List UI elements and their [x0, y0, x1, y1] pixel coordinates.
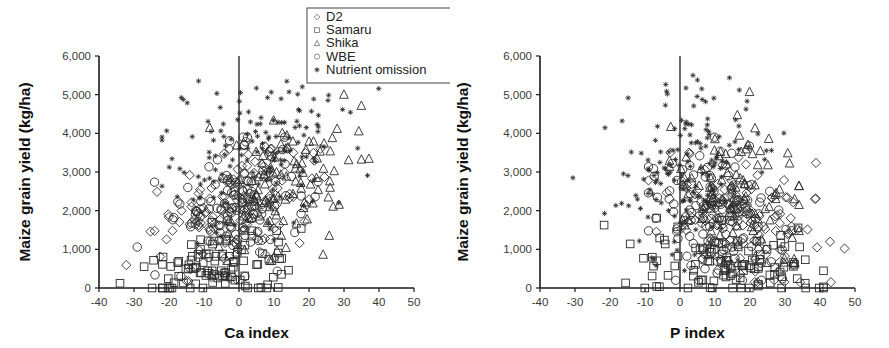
star-marker-icon: [270, 187, 275, 192]
x-tick-label: -10: [637, 296, 654, 308]
star-marker-icon: [325, 98, 330, 103]
square-marker-icon: [653, 283, 661, 291]
star-marker-icon: [301, 203, 306, 208]
circle-marker-icon: [151, 271, 159, 279]
star-marker-icon: [301, 133, 306, 138]
triangle-marker-icon: [766, 216, 775, 224]
triangle-marker-icon: [289, 137, 298, 145]
square-marker-icon: [801, 256, 809, 264]
star-marker-icon: [712, 163, 717, 168]
x-tick-label: 50: [849, 296, 862, 308]
star-marker-icon: [326, 93, 331, 98]
star-marker-icon: [700, 171, 705, 176]
diamond-marker-icon: [840, 244, 849, 253]
star-marker-icon: [237, 146, 242, 151]
triangle-marker-icon: [795, 181, 804, 189]
star-marker-icon: [690, 73, 695, 78]
star-marker-icon: [282, 120, 287, 125]
star-marker-icon: [672, 178, 677, 183]
star-marker-icon: [295, 92, 300, 97]
x-axis-title: P index: [670, 324, 725, 341]
star-marker-icon: [286, 89, 291, 94]
chart-panel-ca: 01,0002,0003,0004,0005,0006,000-40-30-20…: [0, 0, 450, 348]
star-marker-icon: [675, 248, 680, 253]
triangle-marker-icon: [735, 131, 744, 139]
x-tick-label: -30: [567, 296, 584, 308]
star-marker-icon: [685, 151, 690, 156]
star-marker-icon: [299, 182, 304, 187]
y-tick-label: 6,000: [503, 50, 532, 62]
star-marker-icon: [732, 139, 737, 144]
circle-marker-icon: [133, 243, 141, 251]
star-marker-icon: [218, 177, 223, 182]
star-marker-icon: [315, 129, 320, 134]
star-marker-icon: [252, 174, 257, 179]
star-marker-icon: [260, 146, 265, 151]
star-marker-icon: [649, 255, 654, 260]
star-marker-icon: [719, 174, 724, 179]
star-marker-icon: [260, 141, 265, 146]
star-marker-icon: [177, 166, 182, 171]
diamond-marker-icon: [162, 235, 171, 244]
star-marker-icon: [695, 194, 700, 199]
star-marker-icon: [348, 110, 353, 115]
x-tick-label: 0: [236, 296, 242, 308]
x-tick-label: 10: [268, 296, 281, 308]
y-tick-label: 3,000: [503, 166, 532, 178]
square-marker-icon: [671, 262, 679, 270]
diamond-marker-icon: [741, 160, 750, 169]
star-marker-icon: [685, 159, 690, 164]
star-marker-icon: [695, 77, 700, 82]
scatter-figure: 01,0002,0003,0004,0005,0006,000-40-30-20…: [0, 0, 889, 348]
star-marker-icon: [714, 155, 719, 160]
diamond-marker-icon: [811, 158, 820, 167]
star-marker-icon: [701, 208, 706, 213]
diamond-marker-icon: [207, 183, 216, 192]
star-marker-icon: [340, 107, 345, 112]
star-marker-icon: [312, 177, 317, 182]
star-marker-icon: [698, 165, 703, 170]
star-marker-icon: [662, 165, 667, 170]
star-marker-icon: [232, 222, 237, 227]
star-marker-icon: [675, 147, 680, 152]
square-marker-icon: [640, 254, 648, 262]
star-marker-icon: [670, 252, 675, 257]
scatter-plot-ca: 01,0002,0003,0004,0005,0006,000-40-30-20…: [0, 0, 450, 348]
star-marker-icon: [266, 221, 271, 226]
circle-marker-icon: [671, 276, 679, 284]
star-marker-icon: [698, 145, 703, 150]
circle-marker-icon: [297, 192, 305, 200]
x-tick-label: -10: [196, 296, 213, 308]
star-marker-icon: [722, 198, 727, 203]
star-marker-icon: [637, 238, 642, 243]
star-marker-icon: [680, 219, 685, 224]
y-tick-label: 0: [526, 282, 532, 294]
x-axis-title: Ca index: [224, 324, 289, 341]
star-marker-icon: [686, 177, 691, 182]
star-marker-icon: [211, 179, 216, 184]
star-marker-icon: [245, 146, 250, 151]
star-marker-icon: [279, 162, 284, 167]
circle-marker-icon: [686, 232, 694, 240]
circle-marker-icon: [683, 252, 691, 260]
star-marker-icon: [699, 86, 704, 91]
star-marker-icon: [657, 160, 662, 165]
star-marker-icon: [296, 140, 301, 145]
star-marker-icon: [167, 165, 172, 170]
star-marker-icon: [693, 227, 698, 232]
star-marker-icon: [678, 133, 683, 138]
star-marker-icon: [277, 194, 282, 199]
star-marker-icon: [159, 184, 164, 189]
star-marker-icon: [711, 96, 716, 101]
star-marker-icon: [673, 157, 678, 162]
triangle-marker-icon: [305, 137, 314, 145]
star-marker-icon: [654, 197, 659, 202]
diamond-marker-icon: [295, 239, 304, 248]
square-marker-icon: [600, 221, 608, 229]
diamond-marker-icon: [122, 260, 131, 269]
star-marker-icon: [207, 176, 212, 181]
star-marker-icon: [762, 157, 767, 162]
star-marker-icon: [707, 132, 712, 137]
diamond-marker-icon: [244, 150, 253, 159]
star-marker-icon: [653, 138, 658, 143]
